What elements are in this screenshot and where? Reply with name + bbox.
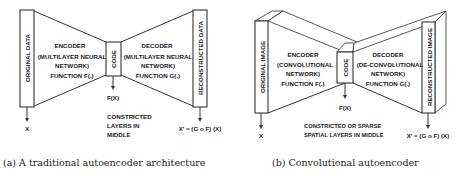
encoder-top-edge (34, 11, 106, 42)
code-label: CODE (342, 59, 349, 77)
middle-note-line-2: LAYERS IN (107, 122, 140, 129)
encoder-line-1: (MULTILAYER NEURAL (38, 53, 107, 60)
middle-note-line-1: CONSTRICTED (107, 113, 152, 120)
output-formula: X' = (G o F) (X) (179, 125, 222, 132)
encoder-line-3: FUNCTION F(.) (281, 80, 324, 87)
caption-a: (a) A traditional autoencoder architectu… (3, 157, 206, 168)
decoder-line-1: (MULTILAYER NEURAL (124, 53, 193, 60)
encoder-line-1: (CONVOLUTIONAL (277, 61, 333, 68)
decoder-line-3: FUNCTION G(.) (366, 80, 410, 87)
decoder-title: DECODER (373, 51, 404, 58)
encoder-title: ENCODER (288, 51, 319, 58)
code-output-label: F(X) (107, 94, 119, 101)
decoder-bottom-edge (121, 75, 193, 106)
decoder-description: DECODER (MULTILAYER NEURAL NETWORK) FUNC… (124, 42, 193, 79)
encoder-description: ENCODER (CONVOLUTIONAL NETWORK) FUNCTION… (277, 51, 333, 87)
middle-note-line-2: SPATIAL LAYERS IN MIDDLE (304, 132, 384, 138)
encoder-description: ENCODER (MULTILAYER NEURAL NETWORK) FUNC… (38, 42, 107, 79)
decoder-line-3: FUNCTION G(.) (136, 72, 180, 79)
figure-a-traditional-autoencoder: ORIGINAL DATA CODE RECONSTRUCTED DATA EN… (20, 10, 221, 138)
output-formula: X' = (G o F) (X) (407, 132, 450, 139)
code-label: CODE (110, 50, 117, 68)
decoder-line-2: NETWORK) (141, 62, 175, 69)
figure-b-convolutional-autoencoder: ORIGINAL IMAGE CODE RECONSTRUCTED IMAGE … (255, 11, 449, 139)
decoder-bottom-edge (353, 83, 422, 113)
decoder-top-edge (121, 11, 193, 42)
middle-note-line-1: CONSTRICTED OR SPARSE (304, 123, 381, 129)
reconstructed-data-label: RECONSTRUCTED DATA (197, 20, 204, 95)
decoder-title: DECODER (142, 42, 173, 49)
middle-note: CONSTRICTED OR SPARSE SPATIAL LAYERS IN … (304, 123, 384, 138)
middle-note-line-3: MIDDLE (107, 131, 131, 138)
decoder-description: DECODER (DE-CONVOLUTIONAL NETWORK) FUNCT… (357, 51, 424, 87)
encoder-bottom-edge (34, 75, 106, 106)
reconstructed-image-label: RECONSTRUCTED IMAGE (426, 28, 433, 106)
input-variable: X (259, 132, 264, 139)
original-image-label: ORIGINAL IMAGE (259, 41, 266, 93)
input-variable: X (25, 125, 30, 132)
output-box-side-face (435, 11, 446, 113)
encoder-line-2: NETWORK) (286, 70, 320, 77)
encoder-line-3: FUNCTION F(.) (50, 72, 93, 79)
encoder-title: ENCODER (55, 42, 86, 49)
decoder-line-1: (DE-CONVOLUTIONAL (357, 61, 424, 68)
code-output-label: F(X) (339, 104, 351, 111)
encoder-line-2: NETWORK) (55, 62, 89, 69)
decoder-line-2: NETWORK) (371, 70, 405, 77)
caption-b: (b) Convolutional autoencoder (272, 157, 419, 168)
middle-note: CONSTRICTED LAYERS IN MIDDLE (107, 113, 152, 138)
original-data-label: ORIGINAL DATA (24, 33, 31, 82)
encoder-bottom-edge (268, 83, 345, 113)
